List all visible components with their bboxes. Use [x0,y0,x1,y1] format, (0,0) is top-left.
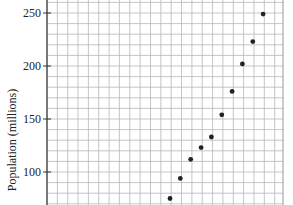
y-axis: 100150200250 [23,0,51,205]
grid [47,0,283,205]
y-tick-label: 100 [23,165,41,179]
y-tick-label: 150 [23,112,41,126]
y-axis-label: Population (millions) [5,89,19,191]
scatter-chart: 100150200250 Population (millions) [0,0,293,205]
data-point [261,12,266,17]
y-tick-label: 250 [23,6,41,20]
y-tick-label: 200 [23,59,41,73]
data-point [199,145,204,150]
data-point [168,196,173,201]
data-point [250,39,255,44]
data-points [168,12,266,201]
data-point [209,135,214,140]
data-point [230,89,235,94]
data-point [178,176,183,181]
data-point [188,157,193,162]
data-point [240,62,245,67]
data-point [219,112,224,117]
